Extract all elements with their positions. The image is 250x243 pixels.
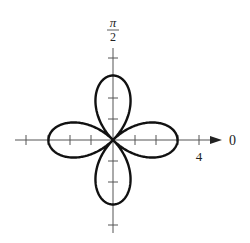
label-pi: π — [110, 15, 117, 30]
polar-plot: π 2 0 4 — [0, 0, 250, 243]
arrowhead-icon — [210, 136, 222, 144]
label-four: 4 — [196, 149, 203, 164]
label-zero: 0 — [229, 133, 236, 148]
label-two: 2 — [110, 30, 116, 44]
